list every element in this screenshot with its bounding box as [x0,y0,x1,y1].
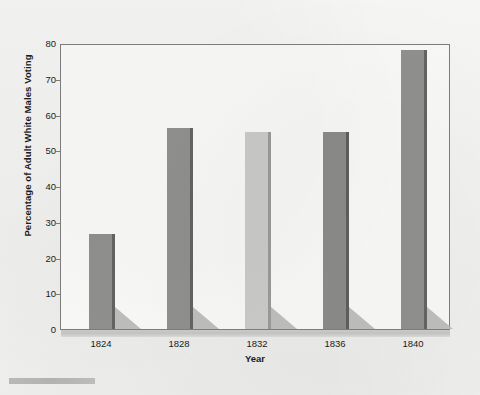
bar-side-edge [112,234,115,329]
bar-side-edge [424,50,427,329]
scanned-page: 01020304050607080 Percentage of Adult Wh… [0,0,480,395]
bar-drop-shadow [115,307,141,329]
y-tick-label: 80 [30,39,56,49]
x-axis-title: Year [60,353,450,364]
x-tick-label: 1824 [71,338,131,349]
bar-body [401,50,427,329]
y-tick-label: 30 [30,218,56,228]
x-tick-label: 1840 [383,338,443,349]
x-tick-label: 1836 [305,338,365,349]
bar-side-edge [346,132,349,329]
x-tick-label: 1832 [227,338,287,349]
bar-body [323,132,349,329]
bar-body [167,128,193,329]
bar-drop-shadow [193,307,219,329]
bar [323,132,349,329]
bar-side-edge [190,128,193,329]
y-tick-label: 50 [30,146,56,156]
bar [89,234,115,329]
scan-artifact-bar [9,378,95,384]
y-tick-label: 10 [30,289,56,299]
bar-drop-shadow [427,307,453,329]
y-tick-label: 70 [30,75,56,85]
bar [167,128,193,329]
y-tick-label: 60 [30,111,56,121]
y-axis-title: Percentage of Adult White Males Voting [22,41,33,251]
y-tick-label: 20 [30,254,56,264]
bar-side-edge [268,132,271,329]
y-tick-label: 0 [30,325,56,335]
y-tick-label: 40 [30,182,56,192]
bar [245,132,271,329]
x-tick-label: 1828 [149,338,209,349]
bar-body [245,132,271,329]
bar-chart-figure: 01020304050607080 Percentage of Adult Wh… [0,0,480,395]
bar [401,50,427,329]
axis-ground-strip [61,330,450,337]
bar-drop-shadow [271,307,297,329]
bar-drop-shadow [349,307,375,329]
bar-body [89,234,115,329]
plot-area [60,44,450,330]
